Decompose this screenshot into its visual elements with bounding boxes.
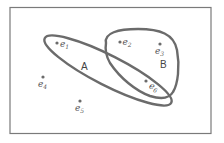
hyperedge-a-label: A [81,61,88,72]
hypergraph-diagram: A B e1 e2 e3 e4 e5 e6 [0,0,224,143]
diagram-frame [10,8,211,134]
vertex-dot [144,79,147,82]
vertex-dot [55,41,58,44]
hyperedge-b-label: B [160,59,167,70]
vertex-dot [118,40,121,43]
